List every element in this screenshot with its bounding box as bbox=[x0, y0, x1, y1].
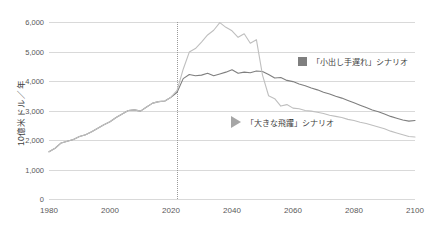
legend-label-late-scenario: 「小出し手遅れ」シナリオ bbox=[312, 56, 408, 67]
chart-title bbox=[0, 0, 425, 4]
chart-container: 10億米ドル／年 01,0002,0003,0004,0005,0006,000… bbox=[0, 0, 425, 232]
y-axis-tick-label: 0 bbox=[4, 195, 44, 204]
legend-label-leap-scenario: 「大きな飛躍」シナリオ bbox=[246, 117, 334, 128]
legend-item-leap-scenario: 「大きな飛躍」シナリオ bbox=[231, 116, 334, 128]
x-axis-tick-label: 2000 bbox=[101, 206, 119, 215]
triangle-marker-icon bbox=[231, 116, 241, 128]
x-axis-tick-label: 2020 bbox=[162, 206, 180, 215]
x-axis-tick-label: 1980 bbox=[40, 206, 58, 215]
x-axis-tick-label: 2040 bbox=[223, 206, 241, 215]
y-axis-tick-label: 1,000 bbox=[4, 165, 44, 174]
x-axis-tick-label: 2080 bbox=[345, 206, 363, 215]
series-line bbox=[49, 23, 415, 152]
y-axis-tick-label: 4,000 bbox=[4, 77, 44, 86]
x-axis-tick-label: 2100 bbox=[406, 206, 424, 215]
y-axis-tick-label: 5,000 bbox=[4, 47, 44, 56]
series-lines bbox=[49, 22, 415, 199]
plot-area: 01,0002,0003,0004,0005,0006,000 19802000… bbox=[49, 22, 415, 199]
legend-item-late-scenario: 「小出し手遅れ」シナリオ bbox=[298, 56, 408, 67]
series-line bbox=[49, 70, 415, 152]
y-axis-tick-label: 2,000 bbox=[4, 136, 44, 145]
y-axis-tick-label: 3,000 bbox=[4, 106, 44, 115]
square-marker-icon bbox=[298, 57, 307, 66]
x-axis-tick-label: 2060 bbox=[284, 206, 302, 215]
gridline bbox=[49, 199, 415, 200]
y-axis-tick-label: 6,000 bbox=[4, 18, 44, 27]
